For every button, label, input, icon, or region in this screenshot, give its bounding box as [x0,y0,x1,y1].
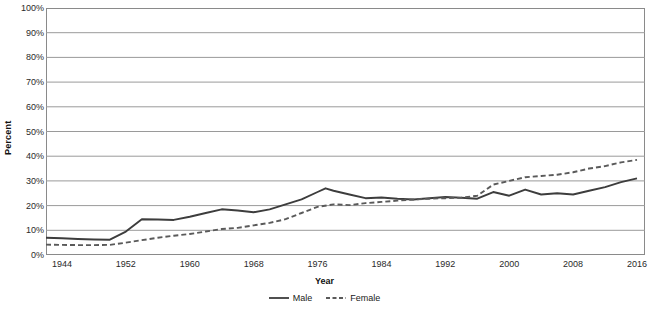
y-tick-label: 60% [14,103,44,112]
legend-swatch-solid-icon [269,294,289,302]
y-tick-label: 80% [14,53,44,62]
x-axis-title: Year [0,276,649,286]
x-tick-label: 1984 [359,259,403,270]
y-tick-label: 20% [14,202,44,211]
line-chart: Percent 0%10%20%30%40%50%60%70%80%90%100… [0,0,649,312]
legend-label: Male [293,293,313,303]
series-line-female [46,160,637,245]
x-tick-label: 1952 [104,259,148,270]
legend-item-female[interactable]: Female [326,293,380,303]
gridlines [46,33,645,231]
x-tick-label: 1960 [168,259,212,270]
y-tick-label: 30% [14,177,44,186]
chart-legend: MaleFemale [0,293,649,303]
y-tick-label: 10% [14,226,44,235]
legend-item-male[interactable]: Male [269,293,313,303]
plot-area [46,8,645,255]
x-tick-label: 2008 [551,259,595,270]
x-axis-tick-labels: 1944195219601968197619841992200020082016 [0,259,649,273]
x-tick-label: 1968 [232,259,276,270]
x-tick-label: 1944 [40,259,84,270]
x-tick-label: 2000 [487,259,531,270]
y-tick-label: 100% [14,4,44,13]
y-tick-label: 40% [14,152,44,161]
legend-swatch-dashed-icon [326,294,346,302]
y-tick-label: 50% [14,128,44,137]
x-tick-label: 1976 [296,259,340,270]
legend-label: Female [350,293,380,303]
x-tick-label: 1992 [423,259,467,270]
y-tick-label: 90% [14,29,44,38]
x-tick-label: 2016 [615,259,649,270]
y-tick-label: 70% [14,78,44,87]
data-series-group [46,160,637,245]
